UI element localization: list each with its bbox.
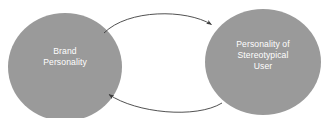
diagram-canvas-svg xyxy=(0,0,327,118)
node-ellipse-brand-personality[interactable] xyxy=(8,13,122,118)
node-ellipse-stereotypical-user[interactable] xyxy=(205,9,321,115)
arrow-user-to-brand xyxy=(109,95,222,113)
cycle-diagram: Brand Personality Personality of Stereot… xyxy=(0,0,327,118)
arrow-brand-to-user xyxy=(104,14,212,33)
